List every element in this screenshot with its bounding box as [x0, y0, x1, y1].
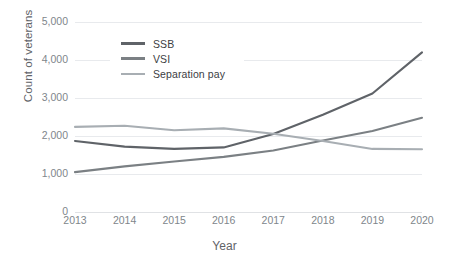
x-tick-label: 2015 [162, 214, 185, 226]
x-axis-tick-labels: 20132014201520162017201820192020 [75, 214, 422, 232]
legend-item-label: VSI [153, 53, 170, 65]
legend-swatch-icon [121, 42, 145, 45]
legend-swatch-icon [121, 57, 145, 60]
y-axis-title: Count of veterans [22, 0, 34, 136]
legend-item[interactable]: Separation pay [121, 67, 235, 80]
y-tick-label: 2,000 [10, 129, 68, 141]
x-tick-label: 2019 [361, 214, 384, 226]
legend-item[interactable]: VSI [121, 52, 235, 65]
y-tick-label: 0 [10, 205, 68, 217]
legend-item-label: SSB [153, 38, 174, 50]
y-tick-label: 1,000 [10, 167, 68, 179]
x-tick-label: 2018 [311, 214, 334, 226]
line-chart: Count of veterans 01,0002,0003,0004,0005… [0, 0, 449, 267]
gridline-0 [75, 212, 422, 213]
y-tick-label: 4,000 [10, 53, 68, 65]
legend-item-label: Separation pay [153, 68, 225, 80]
x-tick-label: 2017 [262, 214, 285, 226]
x-tick-label: 2016 [212, 214, 235, 226]
chart-legend: SSBVSISeparation pay [110, 30, 244, 84]
x-tick-label: 2014 [113, 214, 136, 226]
y-tick-label: 5,000 [10, 15, 68, 27]
legend-item[interactable]: SSB [121, 37, 235, 50]
x-tick-label: 2013 [63, 214, 86, 226]
x-axis-title: Year [0, 239, 449, 253]
y-tick-label: 3,000 [10, 91, 68, 103]
x-tick-label: 2020 [410, 214, 433, 226]
legend-swatch-icon [121, 73, 145, 75]
